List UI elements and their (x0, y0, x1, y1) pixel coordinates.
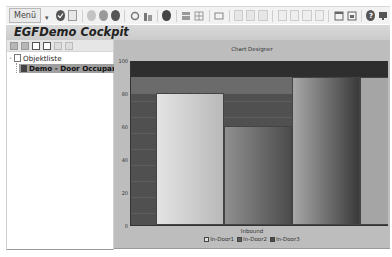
toolbar-separator (209, 10, 210, 22)
tree-item-label: Demo - Door Occupancy (29, 64, 126, 73)
plot-area[interactable] (130, 61, 388, 226)
document-icon (14, 54, 21, 62)
tree-expand-icon[interactable] (10, 42, 18, 50)
layout-icon[interactable] (334, 10, 344, 21)
tree-root[interactable]: - Objektliste (7, 53, 113, 63)
y-tick-label: 60 (114, 124, 128, 130)
bar-clipped[interactable] (360, 77, 388, 225)
legend-label: In-Door1 (210, 236, 234, 242)
y-tick-label: 80 (114, 91, 128, 97)
chart-panel: Chart Designer 100 80 60 40 20 0 Inbound (114, 40, 390, 249)
collapse-icon[interactable]: - (7, 54, 14, 62)
tree-item-selected[interactable]: Demo - Door Occupancy (19, 64, 128, 73)
legend-item[interactable]: In-Door2 (237, 236, 267, 242)
y-tick-label: 100 (114, 58, 128, 64)
undo-icon-2[interactable] (290, 10, 299, 21)
window-icon[interactable] (214, 10, 224, 21)
object-tree-panel: - Objektliste Demo - Door Occupancy (6, 40, 114, 250)
bar-in-door1[interactable] (156, 93, 224, 225)
tree-toolbar (7, 40, 113, 52)
menu-caret-icon[interactable]: ▾ (45, 15, 49, 22)
app-title: EGFDemo Cockpit (14, 25, 129, 40)
lock-icon[interactable] (99, 10, 108, 21)
toolbar-separator (124, 10, 125, 22)
doc-icon-1[interactable] (234, 10, 243, 21)
plot-band (131, 61, 388, 77)
legend-swatch (270, 237, 275, 242)
filter-down-icon[interactable] (43, 42, 51, 50)
chart-legend: In-Door1 In-Door2 In-Door3 (114, 236, 390, 242)
toolbar-separator (272, 10, 273, 22)
doc-icon-3[interactable] (258, 10, 267, 21)
help-icon[interactable]: ? (366, 10, 375, 21)
legend-label: In-Door3 (276, 236, 300, 242)
bar-in-door3[interactable] (292, 77, 360, 225)
toolbar-separator (328, 10, 329, 22)
toolbar-separator (229, 10, 230, 22)
toolbar-separator (157, 10, 158, 22)
tree-option-icon-1[interactable] (54, 42, 62, 50)
main-toolbar: Menü ▾ ? (6, 6, 390, 24)
toolbar-separator (361, 10, 362, 22)
bar-in-door2[interactable] (224, 126, 292, 225)
grid-edit-icon[interactable] (181, 10, 191, 21)
toolbar-separator (82, 10, 83, 22)
x-axis-label: Inbound (114, 228, 390, 234)
save-icon[interactable] (68, 10, 77, 21)
doc-icon-2[interactable] (246, 10, 255, 21)
filter-up-icon[interactable] (32, 42, 40, 50)
grid-icon[interactable] (194, 10, 204, 21)
undo-icon-1[interactable] (278, 10, 287, 21)
y-tick-label: 20 (114, 190, 128, 196)
redo-icon-2[interactable] (315, 10, 324, 21)
chart-title: Chart Designer (114, 46, 390, 52)
settings-icon[interactable] (111, 10, 120, 21)
cockpit-item-icon (21, 65, 27, 72)
toolbar-separator (176, 10, 177, 22)
chart-icon[interactable] (143, 10, 153, 21)
title-bar: EGFDemo Cockpit (6, 25, 390, 40)
app-window: Menü ▾ ? EGFDemo Cockp (0, 0, 392, 257)
redo-icon-1[interactable] (302, 10, 311, 21)
print-icon[interactable] (87, 10, 96, 21)
legend-swatch (237, 237, 242, 242)
monitor-icon[interactable] (378, 10, 388, 21)
legend-swatch (204, 237, 209, 242)
tree-connector (16, 63, 17, 73)
stop-icon[interactable] (162, 10, 171, 21)
check-icon[interactable] (56, 10, 65, 21)
menu-button[interactable]: Menü (9, 8, 41, 23)
tree-option-icon-2[interactable] (65, 42, 73, 50)
y-tick-label: 40 (114, 157, 128, 163)
tree-home-icon[interactable] (21, 42, 29, 50)
window-edit-icon[interactable] (347, 10, 357, 21)
legend-item[interactable]: In-Door3 (270, 236, 300, 242)
menu-label: Menü (14, 11, 36, 20)
tree-item[interactable]: Demo - Door Occupancy (7, 63, 113, 73)
refresh-icon[interactable] (130, 10, 140, 21)
legend-item[interactable]: In-Door1 (204, 236, 234, 242)
object-tree: - Objektliste Demo - Door Occupancy (7, 52, 113, 73)
tree-root-label: Objektliste (23, 54, 62, 63)
legend-label: In-Door2 (243, 236, 267, 242)
